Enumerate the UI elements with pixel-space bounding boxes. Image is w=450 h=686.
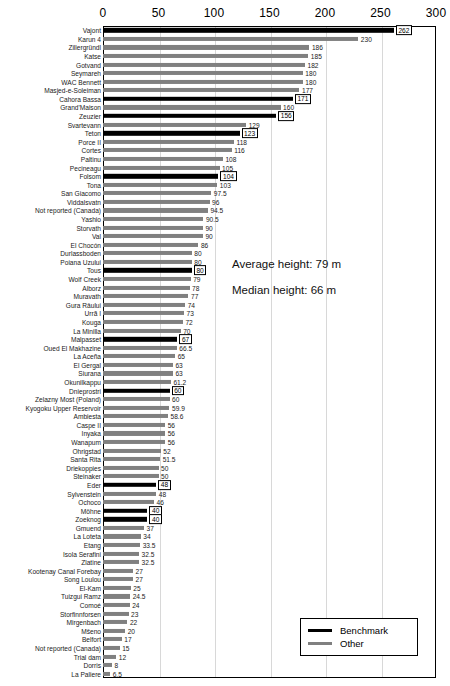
category-label: Inyaka bbox=[82, 430, 101, 437]
legend-item: Other bbox=[308, 637, 411, 650]
bar-benchmark bbox=[103, 174, 218, 178]
category-label: Storvath bbox=[76, 224, 101, 231]
bar-other bbox=[103, 328, 181, 332]
bar-other bbox=[103, 637, 122, 641]
bar-value-label: 80 bbox=[192, 250, 202, 257]
bar-other bbox=[103, 140, 234, 144]
category-label: Kouga bbox=[82, 318, 101, 325]
bar-value-label: 105 bbox=[220, 164, 234, 171]
bar-row: Zillergründl186 bbox=[0, 43, 450, 52]
bar-other bbox=[103, 37, 358, 41]
bar-other bbox=[103, 440, 165, 444]
bar-row: Kootenay Canal Forebay27 bbox=[0, 566, 450, 575]
bar-row: La Minilla70 bbox=[0, 326, 450, 335]
bar-value-label: 90.5 bbox=[203, 216, 218, 223]
category-label: Gura Râului bbox=[66, 301, 101, 308]
bar-row: Val90 bbox=[0, 232, 450, 241]
category-label: Wolf Creek bbox=[69, 276, 102, 283]
bar-other bbox=[103, 397, 170, 401]
category-label: Gotvand bbox=[76, 61, 101, 68]
bar-row: Kouga72 bbox=[0, 318, 450, 327]
bar-other bbox=[103, 406, 169, 410]
bar-benchmark bbox=[103, 114, 276, 118]
bar-other bbox=[103, 88, 299, 92]
bar-value-label: 66.5 bbox=[177, 344, 192, 351]
bar-value-label: 56 bbox=[165, 430, 175, 437]
category-label: El Chocón bbox=[71, 241, 101, 248]
x-axis-tick-label: 300 bbox=[426, 6, 447, 20]
bar-other bbox=[103, 217, 203, 221]
bar-other bbox=[103, 414, 168, 418]
bar-other bbox=[103, 457, 160, 461]
bar-row: El-Kam25 bbox=[0, 584, 450, 593]
bar-value-label: 37 bbox=[144, 524, 154, 531]
bar-value-label: 177 bbox=[299, 87, 313, 94]
category-label: La Loteta bbox=[74, 533, 102, 540]
bar-value-label: 27 bbox=[133, 567, 143, 574]
bar-value-label: 74 bbox=[185, 301, 195, 308]
bar-other bbox=[103, 183, 217, 187]
bar-row: Zeuzier156 bbox=[0, 112, 450, 121]
bar-value-label: 48 bbox=[156, 490, 166, 497]
bar-value-label: 70 bbox=[181, 327, 191, 334]
category-label: La Minilla bbox=[73, 327, 101, 334]
bar-row: El Chocón86 bbox=[0, 240, 450, 249]
bar-value-label: 20 bbox=[125, 627, 135, 634]
category-label: San Giacomo bbox=[61, 190, 101, 197]
bar-other bbox=[103, 148, 232, 152]
category-label: Tous bbox=[87, 267, 101, 274]
category-label: Gmuend bbox=[76, 524, 101, 531]
bar-other bbox=[103, 560, 139, 564]
statistics-annotations: Average height: 79 mMedian height: 66 m bbox=[232, 258, 432, 310]
bar-chart: 050100150200250300 Vajont262Karun 4230Zi… bbox=[0, 0, 450, 686]
category-label: Sylvenstein bbox=[67, 490, 101, 497]
legend-label: Other bbox=[340, 638, 364, 649]
category-label: Comoé bbox=[80, 602, 101, 609]
category-label: Dorris bbox=[83, 662, 101, 669]
bar-other bbox=[103, 363, 173, 367]
bar-row: Comoé24 bbox=[0, 601, 450, 610]
bar-row: Folsom104 bbox=[0, 172, 450, 181]
bar-value-label: 180 bbox=[303, 78, 317, 85]
bar-row: Paltinu108 bbox=[0, 155, 450, 164]
bar-other bbox=[103, 157, 223, 161]
bar-value-label: 50 bbox=[159, 473, 169, 480]
bar-row: Kyogoku Upper Reservoir59.9 bbox=[0, 403, 450, 412]
bar-value-label: 230 bbox=[358, 35, 372, 42]
x-axis-tick-label: 150 bbox=[259, 6, 280, 20]
bar-row: Cahora Bassa171 bbox=[0, 95, 450, 104]
bar-row: Tona103 bbox=[0, 180, 450, 189]
bar-benchmark bbox=[103, 508, 147, 512]
category-label: Val bbox=[92, 233, 101, 240]
category-label: Okunilkappu bbox=[64, 379, 101, 386]
bar-other bbox=[103, 71, 303, 75]
bar-value-label: 33.5 bbox=[140, 542, 155, 549]
bar-value-label: 32.5 bbox=[139, 559, 154, 566]
bar-row: Cortes116 bbox=[0, 146, 450, 155]
bar-other bbox=[103, 654, 116, 658]
bar-other bbox=[103, 534, 141, 538]
bar-row: Gotvand182 bbox=[0, 60, 450, 69]
bar-rows: Vajont262Karun 4230Zillergründl186Katse1… bbox=[0, 26, 450, 678]
bar-other bbox=[103, 629, 125, 633]
statistic-text: Average height: 79 m bbox=[232, 258, 432, 270]
bar-row: Eder48 bbox=[0, 481, 450, 490]
category-label: Malpasset bbox=[71, 336, 101, 343]
bar-other bbox=[103, 234, 203, 238]
bar-row: Ochoco46 bbox=[0, 498, 450, 507]
bar-other bbox=[103, 612, 129, 616]
legend-item: Benchmark bbox=[308, 624, 411, 637]
bar-row: Gmuend37 bbox=[0, 524, 450, 533]
bar-value-label: 24.5 bbox=[130, 593, 145, 600]
bar-value-label: 17 bbox=[122, 636, 132, 643]
bar-value-label: 129 bbox=[246, 121, 260, 128]
bar-row: WAC Bennett180 bbox=[0, 77, 450, 86]
bar-other bbox=[103, 346, 177, 350]
bar-other bbox=[103, 500, 154, 504]
bar-value-label: 78 bbox=[190, 284, 200, 291]
category-label: Oued El Makhazine bbox=[43, 344, 101, 351]
category-label: Zlatine bbox=[81, 559, 101, 566]
category-label: Mirgenbach bbox=[67, 619, 101, 626]
category-label: Dnieprostri bbox=[69, 387, 101, 394]
bar-value-label: 59.9 bbox=[169, 404, 184, 411]
